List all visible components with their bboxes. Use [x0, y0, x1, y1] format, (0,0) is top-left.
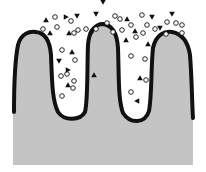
- filled-triangle-particle-icon: [149, 15, 155, 20]
- open-circle-particle-icon: [53, 15, 58, 20]
- open-circle-particle-icon: [65, 72, 70, 77]
- open-circle-particle-icon: [76, 28, 81, 33]
- open-circle-particle-icon: [94, 27, 99, 32]
- filled-triangle-particle-icon: [64, 14, 69, 20]
- filled-triangle-particle-icon: [65, 82, 71, 87]
- filled-triangle-particle-icon: [100, 0, 106, 5]
- open-circle-particle-icon: [140, 13, 145, 18]
- open-circle-particle-icon: [72, 79, 77, 84]
- filled-triangle-particle-icon: [145, 41, 151, 46]
- filled-triangle-particle-icon: [56, 59, 62, 64]
- filled-triangle-particle-icon: [134, 98, 139, 104]
- filled-triangle-particle-icon: [43, 17, 49, 22]
- open-circle-particle-icon: [120, 28, 125, 33]
- open-circle-particle-icon: [72, 31, 77, 36]
- open-circle-particle-icon: [180, 23, 185, 28]
- filled-triangle-particle-icon: [93, 12, 99, 17]
- filled-triangle-particle-icon: [69, 49, 75, 54]
- open-circle-particle-icon: [105, 21, 110, 26]
- filled-triangle-particle-icon: [169, 12, 175, 17]
- open-circle-particle-icon: [71, 86, 76, 91]
- filled-triangle-particle-icon: [47, 30, 53, 35]
- open-circle-particle-icon: [164, 32, 169, 37]
- open-circle-particle-icon: [145, 23, 150, 28]
- filled-triangle-particle-icon: [137, 75, 143, 80]
- open-circle-particle-icon: [59, 74, 64, 79]
- villi-diagram: [0, 0, 206, 172]
- open-circle-particle-icon: [41, 27, 46, 32]
- open-circle-particle-icon: [174, 21, 179, 26]
- open-circle-particle-icon: [141, 31, 146, 36]
- tissue-fill: [13, 24, 193, 165]
- open-circle-particle-icon: [134, 35, 139, 40]
- open-circle-particle-icon: [55, 25, 60, 30]
- open-circle-particle-icon: [129, 90, 134, 95]
- open-circle-particle-icon: [118, 17, 123, 22]
- open-circle-particle-icon: [180, 31, 185, 36]
- open-circle-particle-icon: [60, 48, 65, 53]
- open-circle-particle-icon: [143, 57, 148, 62]
- open-circle-particle-icon: [113, 14, 118, 19]
- open-circle-particle-icon: [111, 30, 116, 35]
- open-circle-particle-icon: [165, 20, 170, 25]
- villi-illustration: [0, 0, 206, 172]
- filled-triangle-particle-icon: [123, 37, 129, 42]
- filled-triangle-particle-icon: [132, 28, 138, 33]
- open-circle-particle-icon: [84, 27, 89, 32]
- open-circle-particle-icon: [153, 27, 158, 32]
- filled-triangle-particle-icon: [124, 16, 130, 21]
- filled-triangle-particle-icon: [66, 30, 72, 35]
- open-circle-particle-icon: [129, 23, 134, 28]
- open-circle-particle-icon: [73, 58, 78, 63]
- open-circle-particle-icon: [144, 78, 149, 83]
- filled-triangle-particle-icon: [157, 26, 163, 31]
- open-circle-particle-icon: [69, 19, 74, 24]
- filled-triangle-particle-icon: [74, 14, 80, 19]
- open-circle-particle-icon: [60, 94, 65, 99]
- open-circle-particle-icon: [129, 54, 134, 59]
